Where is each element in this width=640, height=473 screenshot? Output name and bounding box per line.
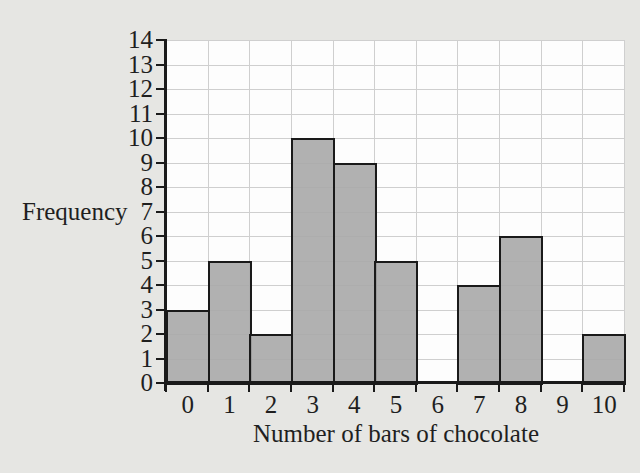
h-gridline xyxy=(167,40,625,41)
x-tick xyxy=(498,384,500,392)
y-tick xyxy=(156,284,165,286)
h-gridline xyxy=(167,65,625,66)
x-tick xyxy=(456,384,458,392)
h-gridline xyxy=(167,89,625,90)
bar-x5 xyxy=(374,261,418,386)
x-tick xyxy=(207,384,209,392)
bar-x3 xyxy=(291,138,335,385)
x-tick xyxy=(165,384,167,392)
y-tick-label: 9 xyxy=(105,151,153,175)
x-tick xyxy=(332,384,334,392)
h-gridline xyxy=(167,138,625,139)
bar-x4 xyxy=(333,163,377,386)
h-gridline xyxy=(167,187,625,188)
bar-x2 xyxy=(249,334,293,385)
y-tick xyxy=(156,39,165,41)
y-tick-label: 4 xyxy=(105,273,153,297)
bar-x8 xyxy=(499,236,543,385)
y-tick-label: 12 xyxy=(105,77,153,101)
y-tick xyxy=(156,358,165,360)
y-tick xyxy=(156,382,165,384)
h-gridline xyxy=(167,212,625,213)
bar-x1 xyxy=(208,261,252,386)
x-tick-label: 5 xyxy=(375,392,417,418)
h-gridline xyxy=(167,114,625,115)
y-tick xyxy=(156,113,165,115)
x-tick-label: 4 xyxy=(334,392,376,418)
y-tick-label: 14 xyxy=(105,28,153,52)
x-tick xyxy=(540,384,542,392)
x-tick-label: 10 xyxy=(583,392,625,418)
x-tick xyxy=(373,384,375,392)
y-tick xyxy=(156,333,165,335)
h-gridline xyxy=(167,236,625,237)
y-tick-label: 10 xyxy=(105,126,153,150)
y-tick xyxy=(156,64,165,66)
x-axis-line xyxy=(164,381,626,384)
plot-area xyxy=(167,40,625,383)
v-gridline xyxy=(624,40,625,383)
x-tick-label: 0 xyxy=(167,392,209,418)
y-tick-label: 2 xyxy=(105,322,153,346)
x-tick xyxy=(415,384,417,392)
x-tick xyxy=(581,384,583,392)
x-tick-label: 7 xyxy=(458,392,500,418)
x-tick-label: 2 xyxy=(250,392,292,418)
y-tick xyxy=(156,137,165,139)
y-tick xyxy=(156,260,165,262)
bar-x0 xyxy=(166,310,210,386)
y-tick-label: 1 xyxy=(105,347,153,371)
y-tick-label: 5 xyxy=(105,249,153,273)
y-axis-line xyxy=(164,39,167,391)
y-tick xyxy=(156,186,165,188)
y-tick-label: 11 xyxy=(105,102,153,126)
y-tick-label: 8 xyxy=(105,175,153,199)
y-tick xyxy=(156,309,165,311)
y-tick xyxy=(156,162,165,164)
y-tick-label: 6 xyxy=(105,224,153,248)
x-tick xyxy=(290,384,292,392)
x-tick xyxy=(623,384,625,392)
bar-x7 xyxy=(457,285,501,385)
x-tick xyxy=(248,384,250,392)
x-tick-label: 8 xyxy=(500,392,542,418)
chart-figure: Frequency Number of bars of chocolate 01… xyxy=(0,0,640,473)
x-tick-label: 9 xyxy=(542,392,584,418)
y-tick-label: 3 xyxy=(105,298,153,322)
x-axis-title: Number of bars of chocolate xyxy=(167,420,625,448)
x-tick-label: 3 xyxy=(292,392,334,418)
bar-x10 xyxy=(582,334,626,385)
h-gridline xyxy=(167,163,625,164)
x-tick-label: 6 xyxy=(417,392,459,418)
x-tick-label: 1 xyxy=(209,392,251,418)
y-tick xyxy=(156,211,165,213)
y-tick xyxy=(156,88,165,90)
y-tick-label: 0 xyxy=(105,371,153,395)
y-tick xyxy=(156,235,165,237)
v-gridline xyxy=(582,40,583,383)
y-tick-label: 13 xyxy=(105,53,153,77)
y-tick-label: 7 xyxy=(105,200,153,224)
